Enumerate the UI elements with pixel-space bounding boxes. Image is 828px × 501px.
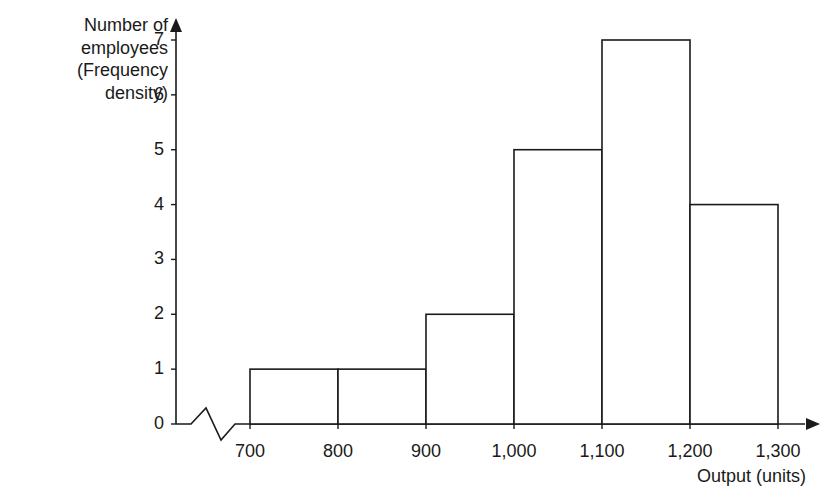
x-tick-label: 1,000 (479, 441, 549, 462)
y-tick-label: 2 (144, 303, 164, 324)
y-axis-arrow-icon (170, 18, 182, 32)
y-tick-label: 6 (144, 84, 164, 105)
x-axis-label: Output (units) (697, 466, 806, 487)
x-tick-label: 800 (303, 441, 373, 462)
x-tick-label: 900 (391, 441, 461, 462)
y-tick-label: 4 (144, 194, 164, 215)
y-tick-label: 1 (144, 358, 164, 379)
x-tick-label: 1,200 (655, 441, 725, 462)
histogram-bar (602, 40, 690, 424)
y-tick-label: 0 (144, 413, 164, 434)
x-tick-label: 700 (215, 441, 285, 462)
x-tick-label: 1,300 (743, 441, 813, 462)
histogram-bar (514, 150, 602, 424)
y-tick-label: 5 (144, 139, 164, 160)
histogram-bars (250, 40, 778, 424)
y-tick-label: 3 (144, 248, 164, 269)
histogram-bar (426, 314, 514, 424)
histogram-bar (250, 369, 338, 424)
x-tick-label: 1,100 (567, 441, 637, 462)
y-axis-label-line: (Frequency (77, 59, 168, 82)
x-axis-arrow-icon (806, 418, 820, 430)
histogram-bar (338, 369, 426, 424)
histogram-bar (690, 205, 778, 424)
y-tick-label: 7 (144, 29, 164, 50)
